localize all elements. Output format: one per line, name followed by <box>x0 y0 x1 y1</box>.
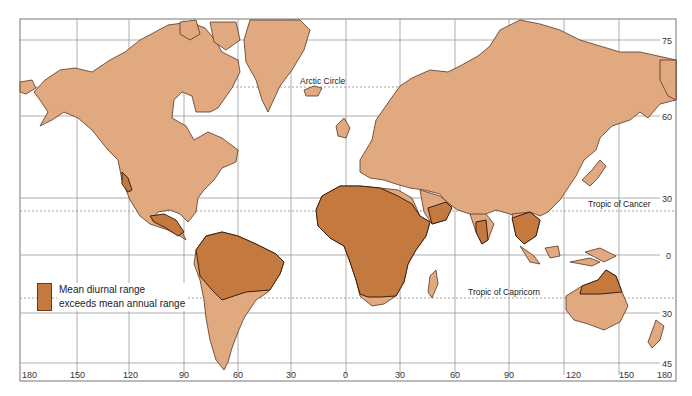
svg-text:90: 90 <box>504 370 514 380</box>
legend-text: Mean diurnal range exceeds mean annual r… <box>57 283 187 311</box>
legend-line-1: Mean diurnal range <box>57 283 187 297</box>
svg-text:150: 150 <box>70 370 85 380</box>
svg-text:60: 60 <box>450 370 460 380</box>
svg-text:60: 60 <box>233 370 243 380</box>
svg-text:60: 60 <box>662 112 672 122</box>
svg-text:45: 45 <box>662 359 672 369</box>
svg-text:30: 30 <box>395 370 405 380</box>
svg-text:0: 0 <box>343 370 348 380</box>
svg-text:90: 90 <box>179 370 189 380</box>
arctic-circle-label: Arctic Circle <box>300 76 346 86</box>
svg-text:30: 30 <box>286 370 296 380</box>
tropic-of-cancer-label: Tropic of Cancer <box>588 199 651 209</box>
tropic-of-capricorn-label: Tropic of Capricorn <box>468 287 540 297</box>
svg-text:120: 120 <box>566 370 581 380</box>
legend-line-2: exceeds mean annual range <box>57 297 187 311</box>
svg-text:180: 180 <box>657 370 672 380</box>
svg-text:120: 120 <box>123 370 138 380</box>
svg-text:150: 150 <box>619 370 634 380</box>
svg-text:180: 180 <box>22 370 37 380</box>
svg-text:30: 30 <box>662 309 672 319</box>
svg-text:0: 0 <box>666 251 671 261</box>
map-legend: Mean diurnal range exceeds mean annual r… <box>37 283 187 311</box>
svg-text:30: 30 <box>662 194 672 204</box>
svg-text:75: 75 <box>662 36 672 46</box>
legend-swatch-highlight <box>37 283 52 311</box>
world-map: 180 150 120 90 60 30 0 30 60 90 120 150 … <box>0 0 692 396</box>
